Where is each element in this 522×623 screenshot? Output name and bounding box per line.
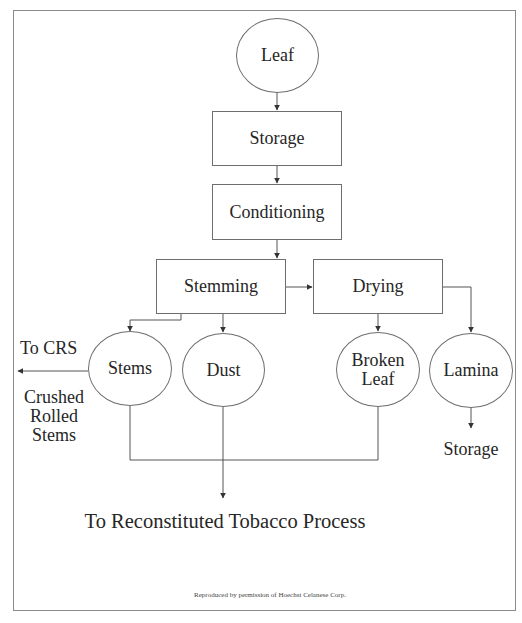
stemming-label: Stemming (184, 277, 258, 296)
reconstituted-tobacco-process-label: To Reconstituted Tobacco Process (60, 510, 390, 533)
stemming-node: Stemming (156, 259, 286, 314)
broken-leaf-label-line2: Leaf (362, 370, 395, 389)
crushed-label-line3: Stems (14, 426, 94, 445)
to-crs-label: To CRS (20, 339, 77, 358)
arrow-drying-to-lamina (443, 287, 471, 332)
stems-node: Stems (88, 331, 172, 406)
lamina-storage-label: Storage (431, 440, 511, 459)
broken-leaf-label-line1: Broken (352, 351, 405, 370)
stems-label: Stems (108, 359, 152, 378)
leaf-node: Leaf (236, 18, 319, 93)
storage-label: Storage (250, 129, 305, 148)
collector-line (130, 406, 378, 460)
credit-footnote: Reproduced by permission of Hoechst Cela… (150, 591, 390, 599)
arrow-stemming-to-stems (130, 314, 181, 331)
drying-node: Drying (313, 259, 443, 314)
crushed-label-line2: Rolled (14, 407, 94, 426)
drying-label: Drying (353, 277, 404, 296)
storage-node: Storage (212, 111, 342, 166)
leaf-label: Leaf (261, 46, 294, 65)
broken-leaf-node: Broken Leaf (336, 332, 420, 407)
crushed-rolled-stems-label: Crushed Rolled Stems (14, 388, 94, 445)
lamina-label: Lamina (444, 361, 499, 380)
conditioning-label: Conditioning (229, 203, 324, 222)
dust-node: Dust (182, 333, 265, 407)
lamina-node: Lamina (429, 333, 513, 408)
conditioning-node: Conditioning (212, 184, 342, 240)
dust-label: Dust (206, 361, 240, 380)
crushed-label-line1: Crushed (14, 388, 94, 407)
